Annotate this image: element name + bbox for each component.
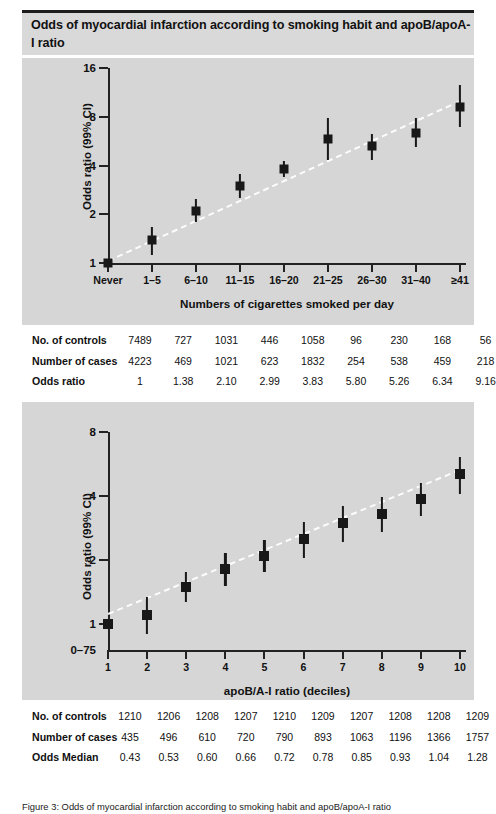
y-axis-tick-label: 1 — [90, 618, 96, 630]
data-point — [219, 563, 231, 575]
data-point — [258, 550, 270, 562]
plot-area-smoking: 124816Never1–56–1011–1516–2021–2526–3031… — [108, 68, 466, 263]
data-point — [234, 180, 246, 192]
x-axis-tick — [195, 263, 197, 272]
data-marker — [259, 551, 269, 561]
table-cell: 1210 — [118, 710, 141, 722]
data-marker — [280, 164, 289, 173]
data-marker — [104, 259, 113, 268]
x-axis-tick — [303, 650, 305, 659]
y-axis-line — [108, 68, 110, 263]
table-cell: 893 — [314, 731, 332, 743]
x-axis-tick — [420, 650, 422, 659]
table-cell: 1 — [137, 375, 143, 387]
data-point — [415, 493, 427, 505]
y-axis-tick — [99, 559, 108, 561]
x-axis-tick — [415, 263, 417, 272]
y-axis-tick-label: 16 — [83, 62, 96, 74]
table-cell: 538 — [390, 355, 408, 367]
trend-line — [108, 100, 461, 262]
table-cell: 469 — [174, 355, 192, 367]
data-marker — [368, 142, 377, 151]
x-axis-tick — [371, 263, 373, 272]
x-axis-tick — [146, 650, 148, 659]
data-marker — [455, 469, 465, 479]
x-axis-tick-label: 8 — [379, 661, 385, 673]
data-marker — [324, 135, 333, 144]
table-cell: 4223 — [128, 355, 151, 367]
x-axis-tick-label: 3 — [183, 661, 189, 673]
data-marker — [412, 129, 421, 138]
table-cell: 3.83 — [303, 375, 323, 387]
table-cell: 0.43 — [120, 751, 140, 763]
table-cell: 5.26 — [389, 375, 409, 387]
table-cell: 1832 — [301, 355, 324, 367]
x-axis-tick-label: 5 — [261, 661, 267, 673]
table-cell: 1207 — [234, 710, 257, 722]
table-cell: 1210 — [273, 710, 296, 722]
table-cell: 1757 — [466, 731, 489, 743]
data-marker — [416, 494, 426, 504]
table-cell: 254 — [347, 355, 365, 367]
y-axis-tick — [99, 67, 108, 69]
table-cell: 0.66 — [236, 751, 256, 763]
table-cell: 5.80 — [346, 375, 366, 387]
data-marker — [181, 582, 191, 592]
table-row-header: Number of cases — [32, 731, 117, 743]
table-row: No. of controls1210120612081207121012091… — [22, 706, 474, 727]
table-row: Odds ratio11.382.102.993.835.805.266.349… — [22, 371, 474, 392]
x-axis-tick — [224, 650, 226, 659]
table-cell: 1208 — [389, 710, 412, 722]
table-cell: 1208 — [196, 710, 219, 722]
table-cell: 1207 — [350, 710, 373, 722]
table-cell: 446 — [261, 334, 279, 346]
data-marker — [236, 181, 245, 190]
data-point — [376, 508, 388, 520]
data-point — [190, 205, 202, 217]
x-axis-line — [108, 650, 466, 652]
x-axis-tick-label: 10 — [454, 661, 466, 673]
x-axis-tick-label: ≥41 — [451, 274, 469, 286]
data-marker — [103, 619, 113, 629]
table-cell: 1.38 — [173, 375, 193, 387]
data-marker — [192, 206, 201, 215]
x-axis-tick-label: 7 — [340, 661, 346, 673]
table-cell: 0.85 — [351, 751, 371, 763]
table-row-header: Odds Median — [32, 751, 99, 763]
data-marker — [148, 236, 157, 245]
y-axis-label-apob: Odds ratio (99% CI) — [80, 493, 93, 600]
table-cell: 1208 — [427, 710, 450, 722]
data-marker — [142, 610, 152, 620]
y-axis-tick — [99, 165, 108, 167]
x-axis-line — [108, 263, 466, 265]
table-cell: 435 — [121, 731, 139, 743]
table-cell: 6.34 — [432, 375, 452, 387]
x-axis-tick-label: 16–20 — [269, 274, 298, 286]
table-row-header: Number of cases — [32, 355, 117, 367]
data-point — [102, 257, 114, 269]
x-axis-tick — [263, 650, 265, 659]
x-axis-tick-label: 4 — [222, 661, 228, 673]
x-axis-tick-label: 21–25 — [313, 274, 342, 286]
x-axis-tick-label: 6 — [301, 661, 307, 673]
data-point — [322, 133, 334, 145]
data-point — [454, 101, 466, 113]
table-cell: 96 — [350, 334, 362, 346]
data-table-apob: No. of controls1210120612081207121012091… — [22, 706, 474, 768]
table-cell: 0.78 — [313, 751, 333, 763]
table-cell: 230 — [390, 334, 408, 346]
table-cell: 1058 — [301, 334, 324, 346]
table-cell: 2.99 — [259, 375, 279, 387]
table-row: Number of cases4223469102162318322545384… — [22, 351, 474, 372]
data-marker — [456, 103, 465, 112]
table-row: No. of controls7489727103144610589623016… — [22, 330, 474, 351]
data-table-smoking: No. of controls7489727103144610589623016… — [22, 330, 474, 392]
y-axis-label-smoking: Odds ratio (99% CI) — [80, 103, 93, 210]
table-cell: 218 — [477, 355, 495, 367]
table-row-header: Odds ratio — [32, 375, 85, 387]
data-marker — [299, 534, 309, 544]
table-row-header: No. of controls — [32, 334, 107, 346]
table-cell: 459 — [434, 355, 452, 367]
table-cell: 1366 — [427, 731, 450, 743]
